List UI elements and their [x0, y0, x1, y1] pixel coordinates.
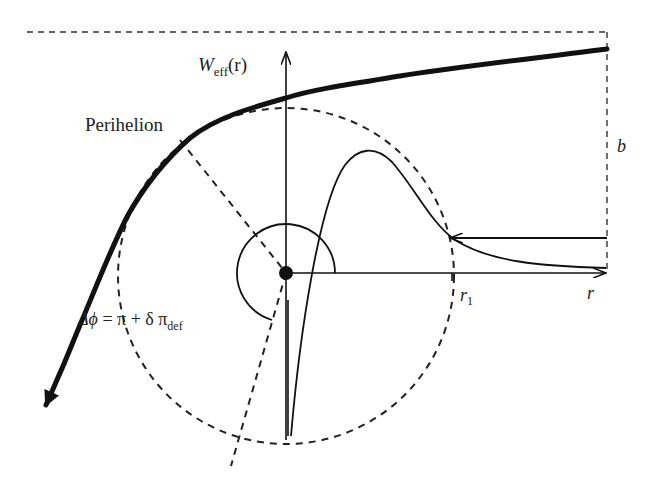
impact-parameter-label: b [617, 136, 626, 156]
trajectory-curve [46, 49, 607, 405]
diagram-canvas: Weff(r) Perihelion Δϕ = π + δ πdef r1 r … [0, 0, 653, 485]
central-mass-dot [279, 266, 293, 280]
perihelion-label: Perihelion [85, 114, 164, 135]
r-axis-label: r [587, 283, 595, 303]
outgoing-axis-dashed-line [231, 273, 286, 466]
perihelion-axis-dashed-line [180, 140, 286, 273]
potential-curve [291, 151, 606, 436]
r1-label: r1 [460, 285, 473, 308]
potential-axis-label: Weff(r) [198, 54, 247, 79]
deflection-angle-label: Δϕ = π + δ πdef [77, 309, 183, 333]
